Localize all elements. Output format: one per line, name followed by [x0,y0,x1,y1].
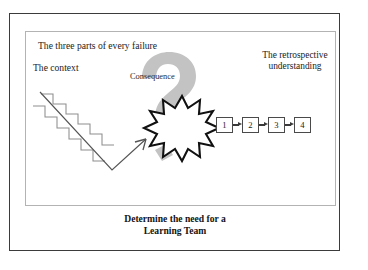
label-retrospective-understanding: The retrospective understanding [247,50,343,72]
caption-line-1: Determine the need for a [30,213,320,225]
step-arrow-icon-3 [285,121,294,129]
diagram-heading: The three parts of every failure [38,40,157,51]
figure-caption: Determine the need for a Learning Team [30,213,320,238]
step-box-2: 2 [242,117,259,133]
failure-diagram-figure: The three parts of every failure The con… [0,0,368,270]
step-box-3: 3 [268,117,285,133]
label-consequence: Consequence [130,72,175,82]
step-sequence: 1 2 3 4 [216,117,311,133]
step-arrow-icon-1 [233,121,242,129]
caption-line-2: Learning Team [30,225,320,237]
step-box-1: 1 [216,117,233,133]
step-arrow-icon-2 [259,121,268,129]
label-the-context: The context [33,62,79,73]
step-box-4: 4 [294,117,311,133]
